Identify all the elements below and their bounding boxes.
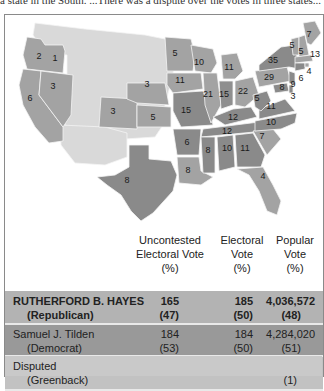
header-line: Electoral Vote (127, 247, 213, 261)
label-LA: 8 (185, 165, 190, 175)
popular-votes: 4,284,020 (253, 327, 315, 341)
uncontested-votes: 165 (153, 294, 179, 308)
page-top-text: a state in the South. ...There was a dis… (0, 0, 324, 6)
label-AL: 10 (222, 143, 232, 153)
header-line: (%) (269, 261, 321, 275)
label-PA: 29 (264, 72, 274, 82)
header-line: Vote (217, 247, 267, 261)
election-map-figure: 2 1 6 3 3 3 5 8 5 11 15 6 8 10 21 11 15 … (4, 14, 324, 377)
header-uncontested-electoral-vote: Uncontested Electoral Vote (%) (127, 233, 213, 291)
electoral-pct: (50) (223, 308, 253, 322)
map-svg: 2 1 6 3 3 3 5 8 5 11 15 6 8 10 21 11 15 … (5, 15, 323, 230)
label-MO: 15 (181, 105, 191, 115)
header-line: (%) (217, 261, 267, 275)
header-popular-vote: Popular Vote (%) (269, 233, 321, 291)
label-IA: 11 (175, 75, 184, 85)
electoral-votes: 185 (223, 294, 253, 308)
label-ID-area: 1 (52, 53, 57, 63)
label-MD: 8 (279, 82, 284, 92)
label-DE: 3 (290, 91, 295, 101)
us-electoral-map: 2 1 6 3 3 3 5 8 5 11 15 6 8 10 21 11 15 … (5, 15, 323, 230)
label-NH: 5 (298, 46, 303, 56)
label-MN: 5 (172, 48, 177, 58)
state-IA (167, 73, 203, 93)
table-row-tilden: Samuel J. Tilden (Democrat) 184 (53) 184… (5, 325, 323, 355)
label-NJ: 9 (290, 79, 295, 89)
table-row-hayes: RUTHERFORD B. HAYES (Republican) 165 (47… (5, 291, 323, 323)
header-electoral-vote: Electoral Vote (%) (217, 233, 267, 291)
label-IN: 15 (219, 89, 229, 99)
uncontested-pct: (53) (153, 341, 179, 355)
label-FL: 4 (260, 171, 265, 181)
candidate-party: (Republican) (27, 308, 94, 322)
header-line: Popular (269, 233, 321, 247)
candidate-name: RUTHERFORD B. HAYES (13, 294, 144, 308)
label-CT: 6 (298, 73, 303, 83)
state-CO (99, 97, 137, 129)
label-MS: 8 (205, 145, 210, 155)
label-NV: 3 (50, 81, 55, 91)
label-IL: 21 (203, 89, 213, 99)
candidate-name: Samuel J. Tilden (13, 327, 94, 341)
label-GA: 11 (240, 143, 249, 153)
label-WV: 5 (254, 93, 259, 103)
label-SC: 7 (259, 131, 264, 141)
electoral-votes: 184 (223, 327, 253, 341)
popular-pct: (48) (253, 308, 301, 322)
label-AR: 6 (184, 137, 189, 147)
header-line: Uncontested (127, 233, 213, 247)
label-MA: 13 (310, 49, 320, 59)
label-NE: 3 (144, 79, 149, 89)
label-ME: 7 (306, 29, 311, 39)
label-KS: 5 (150, 112, 155, 122)
label-OH: 22 (238, 86, 248, 96)
uncontested-votes: 184 (153, 327, 179, 341)
state-FL (237, 167, 281, 215)
label-NY: 35 (268, 55, 278, 65)
state-CT (295, 63, 305, 71)
territory-southwest (60, 125, 127, 165)
label-RI: 4 (306, 66, 311, 76)
popular-votes: 4,036,572 (253, 294, 315, 308)
label-CO: 3 (110, 106, 115, 116)
label-MI: 11 (224, 62, 233, 72)
table-row-disputed: Disputed (5, 356, 322, 376)
state-MN (165, 37, 195, 71)
label-WI: 10 (194, 57, 204, 67)
header-line: (%) (127, 261, 213, 275)
disputed-label: Disputed (13, 359, 56, 373)
candidate-party: (Democrat) (27, 341, 82, 355)
label-OR: 2 (36, 51, 41, 61)
label-KY: 12 (228, 112, 238, 122)
label-NC: 10 (266, 117, 276, 127)
label-CA: 6 (27, 93, 32, 103)
label-TN: 12 (222, 126, 232, 136)
popular-pct: (51) (253, 341, 301, 355)
electoral-pct: (50) (223, 341, 253, 355)
label-VT: 5 (289, 40, 294, 50)
label-VA: 11 (266, 101, 275, 111)
label-TX: 8 (124, 175, 129, 185)
header-line: Vote (269, 247, 321, 261)
uncontested-pct: (47) (153, 308, 179, 322)
header-line: Electoral (217, 233, 267, 247)
